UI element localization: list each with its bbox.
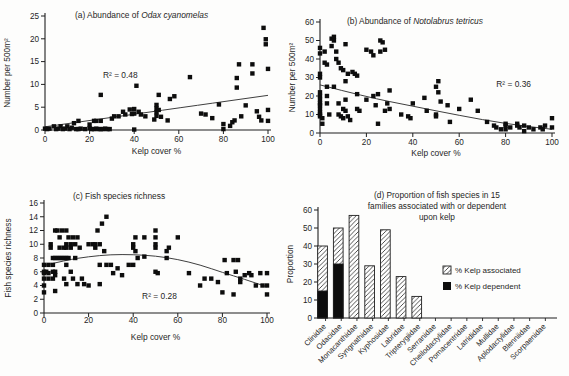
- data-point: [64, 282, 68, 286]
- data-point: [134, 84, 138, 88]
- data-point: [132, 107, 136, 111]
- data-point: [80, 276, 84, 280]
- data-point: [66, 256, 70, 260]
- y-tick-label: 25: [30, 12, 40, 21]
- data-point: [55, 228, 59, 232]
- data-point: [46, 263, 50, 267]
- data-point: [76, 119, 80, 123]
- x-tick-label: 40: [408, 138, 418, 147]
- y-tick-label: 15: [30, 57, 40, 66]
- y-tick-label: 2: [33, 295, 38, 304]
- data-point: [159, 115, 163, 119]
- data-point: [222, 258, 226, 262]
- data-point: [434, 85, 438, 89]
- data-point: [318, 75, 322, 79]
- data-point: [132, 111, 136, 115]
- y-tick-label: 0: [33, 309, 38, 318]
- data-point: [422, 96, 426, 100]
- scatter-chart-odax: 0510152025Number per 500m²020406080100Ke…: [0, 0, 285, 178]
- r-squared-annotation: R² = 0.36: [496, 79, 531, 89]
- data-point: [94, 119, 98, 123]
- data-point: [57, 235, 61, 239]
- panel-title-line: (d) Proportion of fish species in 15: [374, 190, 500, 200]
- data-point: [104, 263, 108, 267]
- data-point: [258, 271, 262, 275]
- data-point: [250, 71, 254, 75]
- data-point: [42, 290, 46, 294]
- y-tick-label: 60: [305, 18, 315, 27]
- data-point: [131, 263, 135, 267]
- data-point: [371, 94, 375, 98]
- data-point: [72, 121, 76, 125]
- data-point: [210, 116, 214, 120]
- data-point: [165, 118, 169, 122]
- data-point: [187, 271, 191, 275]
- data-point: [98, 282, 102, 286]
- data-point: [220, 290, 224, 294]
- y-tick-label: 0: [34, 126, 39, 135]
- data-point: [494, 125, 498, 129]
- data-point: [318, 51, 322, 55]
- data-point: [320, 122, 324, 126]
- data-point: [522, 129, 526, 133]
- data-point: [264, 42, 268, 46]
- data-point: [364, 98, 368, 102]
- data-point: [378, 49, 382, 53]
- x-axis-label: Kelp cover %: [411, 148, 461, 158]
- data-point: [499, 127, 503, 131]
- data-point: [238, 280, 242, 284]
- panel-title: (c) Fish species richness: [73, 191, 165, 201]
- x-tick-label: 100: [261, 135, 275, 144]
- data-point: [100, 221, 104, 225]
- data-point: [64, 263, 68, 267]
- data-point: [332, 85, 336, 89]
- data-point: [234, 270, 238, 274]
- data-point: [46, 276, 50, 280]
- data-point: [83, 127, 87, 131]
- data-point: [469, 98, 473, 102]
- data-point: [376, 122, 380, 126]
- data-point: [176, 235, 180, 239]
- data-point: [102, 249, 106, 253]
- x-tick-label: 20: [85, 135, 95, 144]
- data-point: [209, 276, 213, 280]
- data-point: [244, 103, 248, 107]
- data-point: [42, 263, 46, 267]
- data-point: [364, 48, 368, 52]
- y-tick-label: 8: [33, 254, 38, 263]
- data-point: [411, 101, 415, 105]
- panel-title-line: families associated with or dependent: [368, 201, 507, 211]
- y-tick-label: 14: [29, 213, 39, 222]
- bar-kelp-associated: [381, 230, 391, 318]
- data-point: [132, 127, 136, 131]
- y-tick-label: 10: [29, 240, 39, 249]
- y-tick-label: 20: [30, 35, 40, 44]
- data-point: [436, 79, 440, 83]
- data-point: [346, 72, 350, 76]
- data-point: [73, 256, 77, 260]
- data-point: [69, 270, 73, 274]
- data-point: [104, 215, 108, 219]
- data-point: [550, 125, 554, 129]
- data-point: [408, 116, 412, 120]
- data-point: [225, 271, 229, 275]
- data-point: [383, 109, 387, 113]
- x-tick-label: 0: [43, 135, 48, 144]
- y-tick-label: 30: [303, 260, 313, 269]
- data-point: [107, 127, 111, 131]
- y-tick-label: 40: [305, 55, 315, 64]
- data-point: [42, 276, 46, 280]
- data-point: [172, 94, 176, 98]
- data-point: [543, 123, 547, 127]
- data-point: [127, 263, 131, 267]
- bar-kelp-associated: [412, 296, 422, 318]
- data-point: [380, 40, 384, 44]
- data-point: [236, 258, 240, 262]
- data-point: [142, 235, 146, 239]
- data-point: [73, 242, 77, 246]
- data-point: [199, 111, 203, 115]
- data-point: [255, 109, 259, 113]
- data-point: [325, 101, 329, 105]
- data-point: [385, 101, 389, 105]
- panel-a-odax-abundance: 0510152025Number per 500m²020406080100Ke…: [0, 0, 285, 178]
